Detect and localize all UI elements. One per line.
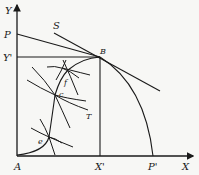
x-axis-label: X — [181, 161, 190, 172]
point-e-label: e — [38, 137, 43, 146]
y-prime-label: Y' — [3, 52, 12, 63]
p-prime-label: P' — [147, 161, 157, 172]
point-s-label: S — [53, 20, 60, 31]
origin-a-label: A — [13, 161, 21, 172]
x-prime-label: X' — [94, 161, 105, 172]
isoquants-f — [47, 60, 90, 95]
production-frontier-curve — [100, 57, 153, 156]
point-f-label: f — [63, 78, 69, 87]
y-axis-label: Y — [5, 5, 13, 16]
isoquants-c — [27, 67, 88, 128]
price-line-pb — [17, 34, 100, 57]
point-b-label: B — [99, 47, 106, 56]
point-p-label: P — [3, 29, 11, 40]
point-c-label: c — [59, 90, 64, 99]
diagram-canvas: Y P Y' S B f c T e A X' P' X — [0, 0, 199, 175]
point-t-label: T — [86, 112, 92, 121]
